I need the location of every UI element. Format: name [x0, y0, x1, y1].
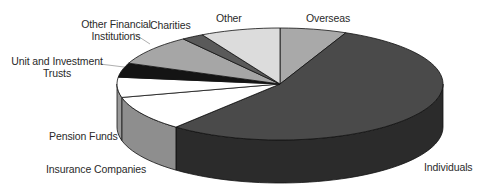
label-charities: Charities — [150, 19, 191, 31]
label-unit-and-investment-trusts: Unit and Investment Trusts — [8, 55, 106, 79]
label-other: Other — [216, 12, 242, 24]
label-overseas: Overseas — [306, 12, 350, 24]
label-insurance-companies: Insurance Companies — [46, 163, 146, 175]
pie-top-faces — [117, 28, 443, 140]
label-unit-trusts-line1: Unit and Investment — [8, 55, 106, 67]
label-other-financial-line2: Institutions — [64, 30, 168, 42]
label-unit-trusts-line2: Trusts — [8, 67, 106, 79]
label-individuals: Individuals — [424, 161, 473, 173]
label-pension-funds: Pension Funds — [49, 130, 118, 142]
